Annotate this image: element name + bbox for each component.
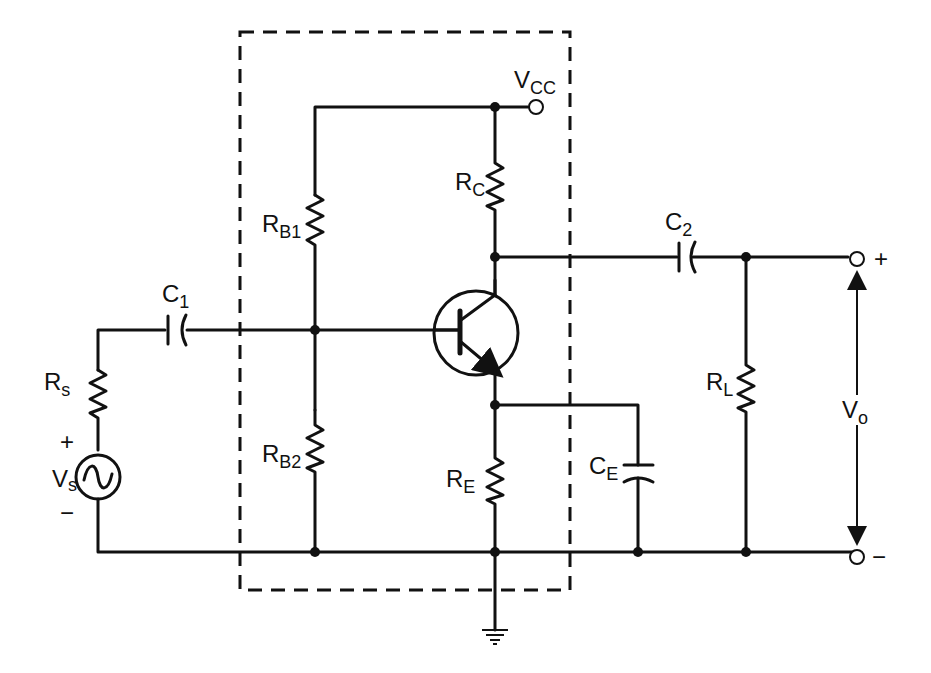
out-plus-sign: + xyxy=(874,245,888,272)
capacitor-c2: C2 xyxy=(665,208,695,272)
rb1-label: RB1 xyxy=(262,210,301,242)
c2-label: C2 xyxy=(665,208,692,240)
ce-label: CE xyxy=(589,452,618,484)
ground-symbol xyxy=(482,552,508,644)
rb2-label: RB2 xyxy=(262,440,301,472)
out-minus-sign: − xyxy=(872,543,886,570)
re-label: RE xyxy=(446,465,475,497)
vs-minus-sign: − xyxy=(60,499,74,526)
circuit-diagram: VCC RB1 RB2 C1 Rs Vs + − xyxy=(0,0,931,673)
resistor-rb1: RB1 xyxy=(262,195,323,410)
npn-transistor xyxy=(434,280,518,405)
resistor-re: RE xyxy=(446,405,503,552)
output-terminal-minus xyxy=(850,550,864,564)
c1-label: C1 xyxy=(162,280,189,312)
vo-label: Vo xyxy=(842,396,868,428)
vs-plus-sign: + xyxy=(60,428,74,455)
amplifier-boundary-box xyxy=(240,32,570,590)
resistor-rs: Rs xyxy=(44,368,106,450)
vo-voltage-arrow: Vo xyxy=(842,280,868,536)
vs-label: Vs xyxy=(52,465,77,495)
vcc-rail: VCC xyxy=(315,66,556,195)
capacitor-c1: C1 xyxy=(162,280,189,345)
output-terminal-plus xyxy=(850,252,864,266)
resistor-rl: RL xyxy=(706,257,754,552)
vcc-label: VCC xyxy=(514,66,556,98)
rl-label: RL xyxy=(706,368,733,400)
rs-label: Rs xyxy=(44,368,70,400)
resistor-rc: RC xyxy=(455,107,503,295)
resistor-rb2: RB2 xyxy=(262,410,323,552)
capacitor-ce: CE xyxy=(589,452,653,552)
vcc-terminal xyxy=(529,100,543,114)
rc-label: RC xyxy=(455,168,485,200)
